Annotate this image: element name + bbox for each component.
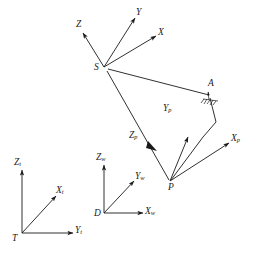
frame-sensor-axes bbox=[83, 18, 156, 67]
label-origin-P: P bbox=[168, 183, 174, 193]
axis-platform-Yp bbox=[170, 137, 188, 181]
label-axis-Yp: Yp bbox=[163, 104, 172, 114]
vector-S-to-A bbox=[108, 69, 209, 95]
label-axis-Y: Y bbox=[136, 8, 141, 18]
label-axis-Xw: Xw bbox=[145, 207, 155, 217]
label-origin-S: S bbox=[94, 63, 99, 73]
label-axis-Zw: Zw bbox=[96, 153, 106, 163]
label-axis-Yt: Yt bbox=[75, 226, 82, 236]
label-axis-X: X bbox=[158, 28, 164, 38]
vector-A-to-P bbox=[171, 98, 216, 180]
diagram-canvas: S Z Y X A P Zp Yp Xp T Zt Xt Yt D Zw Yw … bbox=[0, 0, 253, 258]
label-axis-Z: Z bbox=[76, 20, 81, 30]
label-axis-Xp: Xp bbox=[231, 134, 240, 144]
arrow-marker-Zp bbox=[146, 141, 157, 151]
label-origin-D: D bbox=[94, 209, 101, 219]
frame-target-axes bbox=[22, 170, 73, 233]
axis-target-Xt bbox=[22, 196, 56, 233]
axis-platform-Xp bbox=[170, 143, 229, 181]
label-axis-Xt: Xt bbox=[56, 186, 64, 196]
label-origin-T: T bbox=[12, 234, 17, 244]
label-point-A: A bbox=[208, 79, 214, 89]
frame-platform-axes bbox=[170, 137, 229, 181]
label-axis-Zp: Zp bbox=[129, 131, 138, 141]
label-axis-Yw: Yw bbox=[135, 172, 145, 182]
label-axis-Zt: Zt bbox=[14, 158, 21, 168]
axis-world-Yw bbox=[104, 181, 134, 213]
diagram-vector-layer bbox=[0, 0, 253, 258]
axis-sensor-Y bbox=[104, 18, 135, 67]
vector-S-to-P bbox=[107, 71, 169, 180]
axis-sensor-X bbox=[104, 36, 156, 67]
